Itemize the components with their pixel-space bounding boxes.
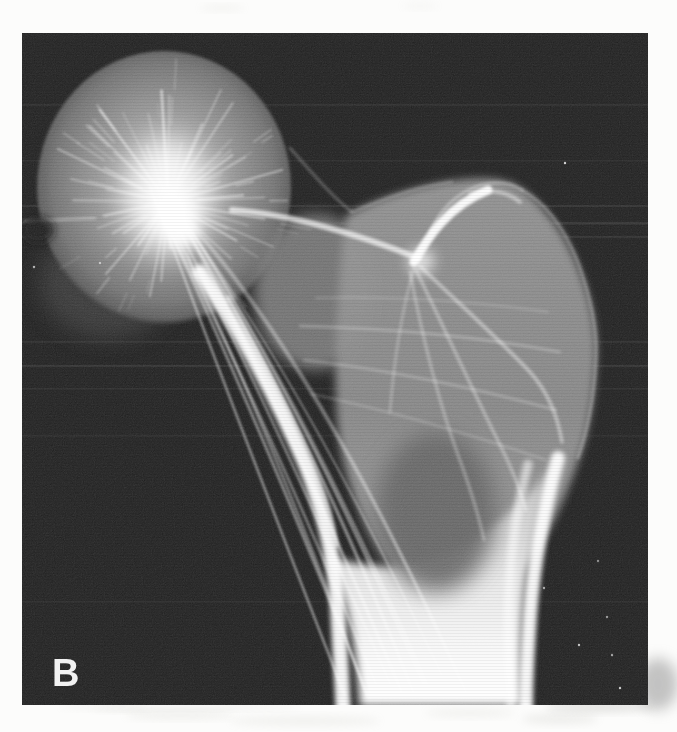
figure-panel: B	[0, 0, 677, 732]
panel-label: B	[52, 652, 79, 694]
page: B	[0, 0, 677, 732]
radiograph-image: B	[0, 0, 677, 732]
radiograph-art	[22, 33, 648, 706]
